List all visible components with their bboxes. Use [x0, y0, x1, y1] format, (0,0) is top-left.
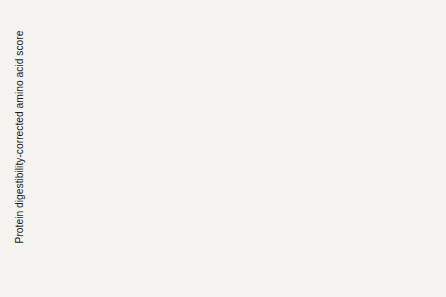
figure: Protein digestibility-corrected amino ac…: [0, 0, 446, 297]
pdcaas-bar-chart: Protein digestibility-corrected amino ac…: [0, 0, 446, 297]
y-axis-label: Protein digestibility-corrected amino ac…: [14, 30, 25, 243]
